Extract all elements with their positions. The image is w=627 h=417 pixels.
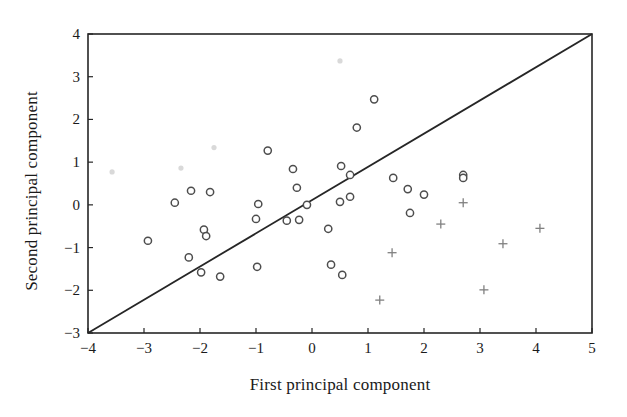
data-point-circle: [296, 216, 303, 223]
data-point-circle: [252, 215, 259, 222]
data-point-faint: [337, 58, 342, 63]
data-point-circle: [198, 269, 205, 276]
data-point-circle: [325, 225, 332, 232]
x-tick-label: 1: [364, 340, 372, 357]
data-point-circle: [185, 254, 192, 261]
y-tick-label: −2: [50, 282, 80, 299]
data-point-faint: [211, 145, 216, 150]
scatter-plot-figure: Second principal component First princip…: [0, 0, 627, 417]
data-point-circle: [217, 273, 224, 280]
data-point-plus: [459, 198, 468, 207]
y-axis-label: Second principal component: [22, 41, 42, 341]
data-point-circle: [187, 187, 194, 194]
data-point-circle: [303, 201, 310, 208]
data-point-circle: [264, 147, 271, 154]
data-point-circle: [206, 188, 213, 195]
y-tick-label: 0: [50, 196, 80, 213]
y-tick-label: 1: [50, 154, 80, 171]
data-point-circle: [338, 162, 345, 169]
data-point-circle: [283, 217, 290, 224]
data-point-plus: [436, 220, 445, 229]
x-tick-label: −3: [136, 340, 152, 357]
data-point-faint: [178, 166, 183, 171]
data-point-circle: [144, 237, 151, 244]
data-point-plus: [479, 285, 488, 294]
x-tick-label: 3: [476, 340, 484, 357]
data-point-plus: [498, 239, 507, 248]
data-point-faint: [109, 169, 114, 174]
x-tick-label: 5: [588, 340, 596, 357]
x-tick-label: 2: [420, 340, 428, 357]
data-point-circle: [339, 271, 346, 278]
data-point-circle: [371, 96, 378, 103]
data-point-circle: [390, 174, 397, 181]
x-tick-label: −1: [248, 340, 264, 357]
data-point-circle: [289, 165, 296, 172]
data-point-circle: [460, 174, 467, 181]
data-point-circle: [254, 263, 261, 270]
x-tick-label: −4: [80, 340, 96, 357]
data-point-plus: [388, 248, 397, 257]
data-point-circle: [293, 184, 300, 191]
data-point-circle: [420, 191, 427, 198]
y-tick-label: −3: [50, 325, 80, 342]
data-point-circle: [353, 124, 360, 131]
y-tick-label: 2: [50, 111, 80, 128]
data-point-circle: [346, 193, 353, 200]
data-point-circle: [255, 200, 262, 207]
data-point-circle: [404, 185, 411, 192]
y-tick-label: −1: [50, 239, 80, 256]
data-point-plus: [375, 296, 384, 305]
reference-line: [88, 34, 592, 333]
data-point-circle: [327, 261, 334, 268]
data-point-plus: [535, 224, 544, 233]
x-tick-label: 4: [532, 340, 540, 357]
data-point-circle: [203, 232, 210, 239]
data-point-circle: [171, 199, 178, 206]
data-point-circle: [346, 171, 353, 178]
y-tick-label: 4: [50, 26, 80, 43]
x-tick-label: 0: [308, 340, 316, 357]
data-point-circle: [336, 198, 343, 205]
data-point-circle: [406, 209, 413, 216]
x-axis-label: First principal component: [88, 375, 592, 395]
y-tick-label: 3: [50, 68, 80, 85]
x-tick-label: −2: [192, 340, 208, 357]
